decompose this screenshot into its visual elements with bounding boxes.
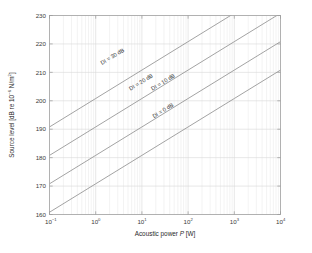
chart-figure: 10−1100101102103104 16017018019020021022… bbox=[0, 0, 312, 253]
series-line-di-20 bbox=[50, 13, 281, 155]
series-label-di-0: DI = 0 dB bbox=[151, 102, 174, 120]
source-level-vs-acoustic-power-chart: 10−1100101102103104 16017018019020021022… bbox=[0, 0, 312, 253]
major-gridlines bbox=[50, 16, 281, 215]
series-label-di-30: DI = 30 dB bbox=[99, 47, 125, 66]
series-line-di-0 bbox=[50, 70, 281, 212]
x-tick-label: 101 bbox=[137, 217, 147, 225]
x-tick-label: 100 bbox=[91, 217, 101, 225]
x-axis-title: Acoustic power P [W] bbox=[135, 230, 196, 238]
y-tick-label: 180 bbox=[36, 154, 47, 161]
y-tick-label: 170 bbox=[36, 182, 47, 189]
y-tick-label: 200 bbox=[36, 97, 47, 104]
x-tick-label: 104 bbox=[276, 217, 286, 225]
y-tick-label: 210 bbox=[36, 69, 47, 76]
y-tick-labels: 160170180190200210220230 bbox=[36, 12, 47, 218]
y-tick-label: 160 bbox=[36, 211, 47, 218]
series-label-di-10: DI = 10 dB bbox=[150, 72, 176, 91]
series-line-di-10 bbox=[50, 42, 281, 184]
y-tick-label: 230 bbox=[36, 12, 47, 19]
x-tick-label: 102 bbox=[184, 217, 194, 225]
x-tick-labels: 10−1100101102103104 bbox=[45, 217, 286, 225]
axis-ticks bbox=[50, 16, 281, 215]
y-tick-label: 190 bbox=[36, 125, 47, 132]
axes-frame bbox=[50, 16, 281, 215]
y-tick-label: 220 bbox=[36, 40, 47, 47]
x-tick-label: 103 bbox=[230, 217, 240, 225]
y-axis-title: Source level [dB re 10−6 N/m2] bbox=[7, 72, 16, 158]
x-tick-label: 10−1 bbox=[45, 217, 57, 225]
